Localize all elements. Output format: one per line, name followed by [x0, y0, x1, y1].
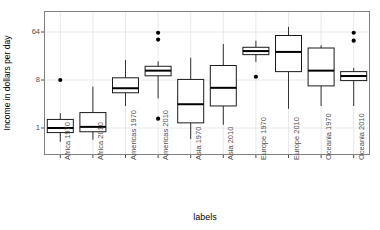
y-tick-label: 1 — [18, 123, 40, 132]
box-iqr — [308, 48, 334, 86]
x-tick-label: Asia 2010 — [226, 127, 235, 160]
x-tick-label: Africa 1970 — [63, 122, 72, 160]
x-axis-title: labels — [40, 212, 370, 222]
box-group — [210, 44, 236, 125]
x-tick-label: Africa 2010 — [96, 122, 105, 160]
box-iqr — [276, 35, 302, 71]
box-group — [308, 45, 334, 106]
x-tick-label: Americas 2010 — [161, 110, 170, 160]
outlier-point — [58, 78, 62, 82]
outlier-point — [352, 39, 356, 43]
x-tick-label: Americas 1970 — [129, 110, 138, 160]
y-tick-label: 8 — [18, 75, 40, 84]
x-tick-label: Asia 1970 — [194, 127, 203, 160]
box-iqr — [210, 65, 236, 105]
y-tick-label: 64 — [18, 27, 40, 36]
box-iqr — [178, 79, 204, 122]
outlier-point — [156, 38, 160, 42]
chart-canvas — [0, 0, 380, 230]
boxplot-figure: Income in dollars per day labels 1864Afr… — [0, 0, 380, 230]
outlier-point — [156, 31, 160, 35]
x-tick-label: Europe 2010 — [292, 117, 301, 160]
box-group — [276, 27, 302, 109]
outlier-point — [254, 75, 258, 79]
outlier-point — [352, 31, 356, 35]
x-tick-label: Oceania 1970 — [324, 113, 333, 160]
box-group — [341, 31, 367, 106]
box-group — [113, 60, 139, 106]
outlier-point — [156, 117, 160, 121]
x-tick-label: Oceania 2010 — [357, 113, 366, 160]
box-iqr — [113, 78, 139, 93]
x-tick-label: Europe 1970 — [259, 117, 268, 160]
